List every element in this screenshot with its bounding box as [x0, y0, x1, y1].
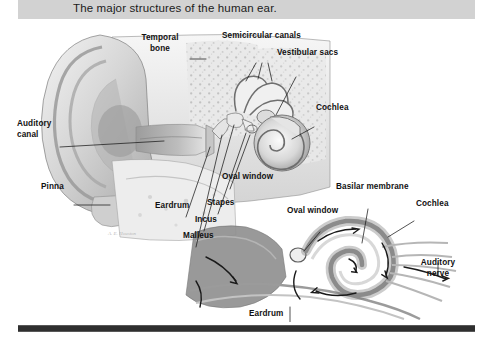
label-stapes: Stapes [207, 198, 234, 209]
label-auditory-canal: Auditory canal [17, 119, 51, 140]
label-pinna: Pinna [41, 182, 64, 193]
label-semicircular-canals: Semicircular canals [222, 31, 301, 42]
ear-anatomy-illustration [0, 19, 481, 322]
label-incus: Incus [195, 215, 217, 226]
label-oval-window-lower: Oval window [287, 206, 338, 217]
label-vestibular-sacs: Vestibular sacs [277, 48, 338, 59]
label-malleus: Malleus [183, 231, 214, 242]
label-basilar-membrane: Basilar membrane [336, 182, 409, 193]
artist-signature: A. E. Houston [108, 231, 136, 236]
label-temporal-bone: Temporal bone [134, 33, 186, 54]
label-auditory-nerve: Auditory nerve [416, 258, 460, 279]
figure-caption-text: The major structures of the human ear. [73, 2, 277, 14]
label-cochlea-lower: Cochlea [416, 199, 449, 210]
ear-anatomy-figure: Temporal bone Semicircular canals Vestib… [0, 19, 481, 322]
figure-bottom-rule [18, 325, 475, 332]
label-oval-window-upper: Oval window [222, 172, 273, 183]
label-eardrum-upper: Eardrum [155, 201, 189, 212]
figure-caption-bar: The major structures of the human ear. [18, 0, 475, 19]
cochlea-coiled [254, 115, 310, 171]
label-eardrum-lower: Eardrum [249, 309, 283, 320]
label-cochlea-upper: Cochlea [316, 103, 349, 114]
